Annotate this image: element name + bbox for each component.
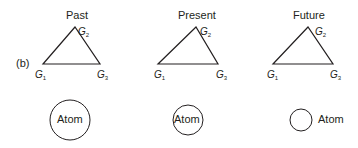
vertex-label-g1-future: G1 [267,70,278,83]
triangle-past [43,27,100,64]
atom-label-future: Atom [318,114,344,125]
title-future: Future [293,10,325,21]
vertex-label-g1-past: G1 [35,70,46,83]
vertex-label-g2-past: G2 [78,27,89,40]
atom-label-present: Atom [174,114,200,125]
title-past: Past [66,10,88,21]
vertex-label-g2-future: G2 [315,27,326,40]
diagram-graphics [0,0,358,148]
vertex-label-g2-present: G2 [200,27,211,40]
vertex-label-g3-future: G3 [330,70,341,83]
vertex-label-g3-present: G3 [216,70,227,83]
vertex-label-g1-present: G1 [154,70,165,83]
title-present: Present [178,10,216,21]
vertex-label-g3-past: G3 [97,70,108,83]
atom-label-past: Atom [57,114,83,125]
panel-label: (b) [16,58,29,69]
atom-circle-future [290,109,312,131]
